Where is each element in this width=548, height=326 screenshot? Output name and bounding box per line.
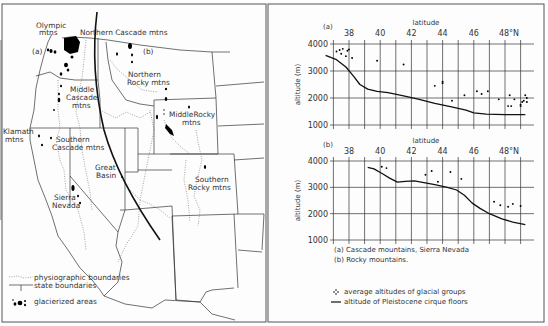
cirque-floor-line — [326, 55, 526, 114]
glacial-group-point — [513, 98, 515, 100]
glacial-group-point — [342, 48, 344, 50]
glacial-group-point — [510, 105, 512, 107]
glacial-group-point — [385, 167, 387, 169]
glacial-group-point — [509, 94, 511, 96]
glacial-group-point — [476, 90, 478, 92]
glacial-group-point — [507, 105, 509, 107]
chart-a: 4000300020001000384042444648°Nlatitude(a… — [294, 19, 534, 130]
glacial-group-point — [336, 51, 338, 53]
x-tick-label: 44 — [438, 147, 448, 156]
glacial-group-point — [451, 100, 453, 102]
chart-b: 4000300020001000384042444648°Nlatitude(b… — [294, 137, 534, 245]
y-tick-label: 4000 — [308, 40, 328, 49]
x-tick-label: 38 — [344, 147, 354, 156]
y-tick-label: 1000 — [308, 236, 328, 245]
glacial-group-point — [499, 204, 501, 206]
glacial-group-point — [434, 85, 436, 87]
x-axis-label: latitude — [413, 19, 440, 27]
glacial-group-point — [498, 98, 500, 100]
glacial-group-point — [424, 174, 426, 176]
glacial-group-point — [524, 94, 526, 96]
x-tick-label: 46 — [469, 147, 479, 156]
x-tick-label: 44 — [438, 29, 448, 38]
x-tick-label: 46 — [469, 29, 479, 38]
y-tick-label: 3000 — [308, 183, 328, 192]
y-axis-label: altitude (m) — [294, 64, 302, 106]
cirque-floor-line — [368, 167, 526, 224]
glacial-group-point — [460, 178, 462, 180]
x-tick-label: 38 — [344, 29, 354, 38]
figure: Olympic mtns Northern Cascade mtns (a) (… — [0, 0, 548, 326]
points-legend-icon — [333, 289, 339, 295]
glacial-group-point — [403, 64, 405, 66]
glacial-group-point — [507, 206, 509, 208]
x-axis-label: latitude — [413, 137, 440, 145]
glacial-group-point — [431, 170, 433, 172]
glacial-group-point — [449, 171, 451, 173]
y-tick-label: 4000 — [308, 157, 328, 166]
glacial-group-point — [339, 49, 341, 51]
x-tick-label: 48°N — [499, 147, 519, 156]
y-axis-label: altitude (m) — [294, 180, 302, 222]
glacial-group-point — [520, 105, 522, 107]
glacial-group-point — [376, 60, 378, 62]
glacial-group-point — [512, 203, 514, 205]
glacial-group-point — [348, 48, 350, 50]
y-tick-label: 1000 — [308, 121, 328, 130]
glacial-group-point — [463, 94, 465, 96]
charts-panel: 4000300020001000384042444648°Nlatitude(a… — [0, 0, 548, 326]
glacial-group-point — [345, 55, 347, 57]
caption-a: (a) Cascade mountains, Sierra Nevada — [334, 246, 469, 254]
y-tick-label: 2000 — [308, 94, 328, 103]
glacial-group-point — [442, 82, 444, 84]
glacial-group-point — [481, 93, 483, 95]
caption-b: (b) Rocky mountains. — [334, 256, 408, 264]
glacial-group-point — [346, 50, 348, 52]
glacial-group-point — [487, 90, 489, 92]
glacial-group-point — [521, 101, 523, 103]
glacial-group-point — [437, 181, 439, 183]
x-tick-label: 48°N — [499, 29, 519, 38]
glacial-group-point — [493, 201, 495, 203]
x-tick-label: 40 — [375, 29, 385, 38]
glacial-group-point — [526, 97, 528, 99]
glacial-group-point — [351, 57, 353, 59]
glacial-group-point — [526, 101, 528, 103]
y-tick-label: 2000 — [308, 210, 328, 219]
panel-label: (a) — [323, 23, 333, 31]
glacial-group-point — [520, 205, 522, 207]
x-tick-label: 42 — [406, 29, 416, 38]
glacial-group-point — [523, 100, 525, 102]
glacial-group-point — [381, 166, 383, 168]
legend-points: average altitudes of glacial groups — [344, 288, 466, 296]
panel-label: (b) — [323, 141, 333, 149]
chart-legend: average altitudes of glacial groups alti… — [331, 288, 468, 306]
y-tick-label: 3000 — [308, 67, 328, 76]
glacial-group-point — [340, 53, 342, 55]
x-tick-label: 42 — [406, 147, 416, 156]
legend-line: altitude of Pleistocene cirque floors — [344, 298, 468, 306]
x-tick-label: 40 — [375, 147, 385, 156]
